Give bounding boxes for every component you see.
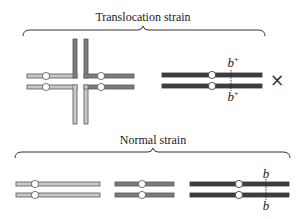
diagram-canvas	[0, 0, 307, 219]
translocation-strain-label: Translocation strain	[95, 10, 190, 25]
locus-superscript: +	[234, 89, 239, 98]
normal-medium-pair	[115, 180, 174, 198]
normal-brace	[15, 148, 290, 158]
locus-b-bottom: b	[263, 199, 270, 212]
translocation-dark-pair	[162, 70, 262, 91]
translocation-cross	[27, 39, 134, 124]
normal-dark-pair	[190, 179, 289, 200]
normal-strain-label: Normal strain	[120, 133, 186, 148]
cross-symbol: ×	[270, 72, 284, 89]
locus-b-plus-bottom: b+	[227, 90, 238, 103]
translocation-brace	[23, 26, 265, 36]
locus-b-top: b	[263, 167, 270, 180]
normal-light-pair	[16, 180, 100, 198]
locus-superscript: +	[234, 55, 239, 64]
locus-b-plus-top: b+	[227, 56, 238, 69]
